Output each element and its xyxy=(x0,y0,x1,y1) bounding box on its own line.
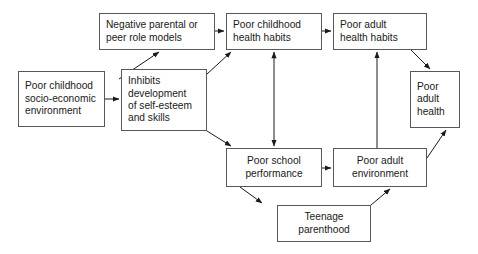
node-label: Poor school performance xyxy=(245,155,302,180)
node-label: Negative parental or peer role models xyxy=(106,19,198,44)
node-poor-childhood-health-habits[interactable]: Poor childhood health habits xyxy=(226,13,322,50)
node-label: Teenage parenthood xyxy=(298,211,350,236)
edge-inhibits-to-school xyxy=(207,131,231,146)
edge-adult-env-to-adult-health xyxy=(427,130,446,158)
node-teenage-parenthood[interactable]: Teenage parenthood xyxy=(277,205,371,242)
edge-teenage-to-adult-environment xyxy=(371,189,390,205)
node-label: Poor childhood health habits xyxy=(233,19,301,44)
node-label: Poor adult health habits xyxy=(340,19,398,44)
node-label: Poor adult environment xyxy=(352,155,408,180)
node-poor-adult-health-habits[interactable]: Poor adult health habits xyxy=(333,13,427,50)
node-poor-school-performance[interactable]: Poor school performance xyxy=(226,148,322,187)
edge-inhibits-to-child-habits xyxy=(207,52,231,74)
edge-school-to-teenage xyxy=(240,187,262,203)
edge-adult-habits-to-adult-health xyxy=(411,50,430,69)
node-negative-parental-or-peer-role-models[interactable]: Negative parental or peer role models xyxy=(99,13,215,50)
node-poor-adult-environment[interactable]: Poor adult environment xyxy=(333,148,427,187)
node-label: Inhibits development of self-esteem and … xyxy=(128,75,192,125)
node-poor-childhood-socio-economic-environment[interactable]: Poor childhood socio-economic environmen… xyxy=(18,71,105,127)
node-label: Poor childhood socio-economic environmen… xyxy=(25,80,96,117)
node-inhibits-development-of-self-esteem-and-skills[interactable]: Inhibits development of self-esteem and … xyxy=(121,69,207,131)
node-label: Poor adult health xyxy=(417,81,445,118)
node-poor-adult-health[interactable]: Poor adult health xyxy=(410,71,460,128)
diagram-canvas: Poor childhood socio-economic environmen… xyxy=(0,0,478,254)
